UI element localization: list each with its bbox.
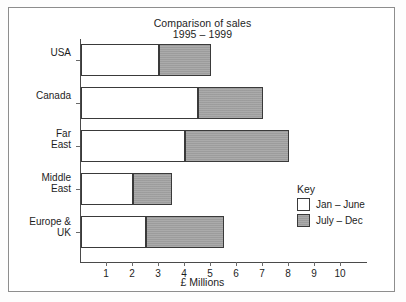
category-label-line: USA	[50, 47, 71, 58]
x-tick	[262, 262, 263, 266]
category-label-line: Europe &	[5, 216, 71, 227]
y-tick	[76, 189, 80, 190]
y-tick	[76, 232, 80, 233]
x-axis-title: £ Millions	[9, 276, 396, 288]
bar-segment[interactable]	[81, 216, 146, 248]
legend-swatch-icon	[297, 214, 310, 227]
legend-swatch-icon	[297, 198, 310, 211]
x-axis-line	[80, 262, 367, 263]
category-label-europe-uk: Europe & UK	[5, 216, 71, 238]
bar-segment[interactable]	[81, 87, 198, 119]
bar-segment[interactable]	[198, 87, 263, 119]
category-label-middle-east: Middle East	[5, 172, 71, 194]
bar-segment[interactable]	[81, 130, 185, 162]
category-label-line: East	[5, 139, 71, 150]
legend-item-label: July – Dec	[316, 215, 363, 226]
legend-item-july-dec[interactable]: July – Dec	[297, 214, 389, 227]
x-tick	[158, 262, 159, 266]
legend-item-label: Jan – June	[316, 199, 365, 210]
category-label-far-east: Far East	[5, 128, 71, 150]
x-tick	[184, 262, 185, 266]
bar-segment[interactable]	[185, 130, 289, 162]
x-tick	[236, 262, 237, 266]
category-label-canada: Canada	[5, 90, 71, 101]
bar-segment[interactable]	[146, 216, 224, 248]
y-tick	[76, 103, 80, 104]
chart-frame: Comparison of sales 1995 – 1999 USA Cana…	[8, 7, 395, 292]
category-label-line: UK	[5, 227, 71, 238]
category-label-line: Middle	[5, 172, 71, 183]
x-tick	[132, 262, 133, 266]
bar-segment[interactable]	[81, 44, 159, 76]
x-tick	[288, 262, 289, 266]
x-tick	[314, 262, 315, 266]
category-label-line: Far	[5, 128, 71, 139]
bar-segment[interactable]	[133, 173, 172, 205]
legend-item-jan-june[interactable]: Jan – June	[297, 198, 389, 211]
legend-title: Key	[297, 183, 389, 195]
x-tick	[210, 262, 211, 266]
chart-page: Comparison of sales 1995 – 1999 USA Cana…	[0, 0, 406, 302]
y-tick	[76, 146, 80, 147]
bar-segment[interactable]	[159, 44, 211, 76]
category-axis-labels: USA Canada Far East Middle East Europe &…	[9, 39, 77, 263]
chart-title-block: Comparison of sales 1995 – 1999	[9, 18, 396, 40]
category-label-line: Canada	[36, 90, 71, 101]
category-label-line: East	[5, 183, 71, 194]
x-tick	[340, 262, 341, 266]
y-tick	[76, 60, 80, 61]
bar-segment[interactable]	[81, 173, 133, 205]
category-label-usa: USA	[5, 47, 71, 58]
x-tick	[106, 262, 107, 266]
legend: Key Jan – June July – Dec	[297, 183, 389, 230]
